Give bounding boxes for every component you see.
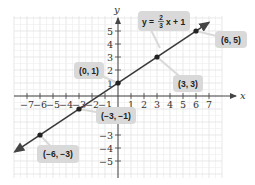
- data-point: [115, 80, 120, 85]
- point-label: (0, 1): [79, 66, 99, 76]
- point-label: (−3, −1): [101, 111, 131, 121]
- data-point: [154, 54, 159, 59]
- x-tick-label: −4: [59, 99, 73, 110]
- point-label: (3, 3): [178, 79, 198, 89]
- y-tick-label: −5: [99, 156, 113, 167]
- x-tick-label: 7: [206, 99, 212, 110]
- point-label: (−6, −3): [43, 149, 73, 159]
- x-tick-label: 6: [193, 99, 199, 110]
- x-tick-label: 2: [141, 99, 147, 110]
- equation-lhs: y =: [142, 17, 154, 27]
- data-point: [193, 28, 198, 33]
- y-tick-label: 4: [107, 39, 113, 50]
- equation-label: y =23x + 1: [138, 11, 190, 48]
- x-tick-label: −6: [33, 99, 47, 110]
- coordinate-plane: xy −7−6−5−4−3−2−11234567−5−4−3−112345 (−…: [0, 0, 255, 185]
- y-tick-label: −4: [99, 143, 113, 154]
- equation-numerator: 2: [159, 14, 163, 21]
- y-axis-label: y: [113, 4, 120, 15]
- x-tick-label: 4: [167, 99, 173, 110]
- x-tick-label: −5: [46, 99, 60, 110]
- equation-rhs: x + 1: [166, 17, 185, 27]
- y-tick-label: −3: [99, 130, 113, 141]
- y-tick-label: 5: [107, 26, 113, 37]
- x-tick-label: 5: [180, 99, 186, 110]
- point-label: (6, 5): [221, 35, 241, 45]
- data-point: [76, 106, 81, 111]
- x-tick-label: −7: [20, 99, 34, 110]
- equation-denominator: 3: [159, 22, 163, 29]
- x-axis-label: x: [240, 90, 246, 101]
- data-point: [37, 132, 42, 137]
- x-tick-label: 3: [154, 99, 160, 110]
- y-tick-label: 3: [107, 52, 113, 63]
- y-tick-label: 2: [107, 65, 113, 76]
